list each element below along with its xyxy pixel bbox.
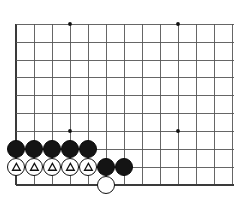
star-point-bottom-left — [68, 129, 72, 133]
star-point-bottom-right — [176, 129, 180, 133]
triangle-mark-icon — [62, 159, 79, 176]
star-point-top-right — [176, 22, 180, 26]
triangle-mark-icon — [8, 159, 25, 176]
star-point-top-left — [68, 22, 72, 26]
triangle-mark-icon — [44, 159, 61, 176]
go-board-diagram: Go board corner diagram — [0, 0, 234, 204]
triangle-mark-icon — [26, 159, 43, 176]
triangle-mark-icon — [80, 159, 97, 176]
